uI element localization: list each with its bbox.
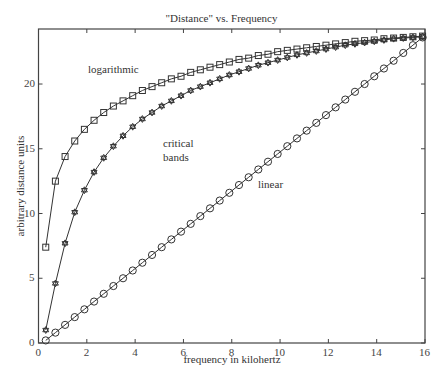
x-tick-label: 4	[132, 346, 138, 358]
series-line-linear	[46, 37, 423, 340]
y-tick-label: 0	[29, 336, 35, 348]
x-tick-label: 0	[36, 346, 42, 358]
series-label-critical: critical	[163, 137, 194, 149]
x-tick-label: 12	[322, 346, 333, 358]
series-label-logarithmic: logarithmic	[88, 63, 139, 75]
chart-title: "Distance" vs. Frequency	[0, 12, 443, 24]
x-tick-label: 8	[229, 346, 235, 358]
x-tick-label: 10	[274, 346, 285, 358]
y-tick-label: 5	[29, 271, 35, 283]
series-label-linear: linear	[258, 178, 283, 190]
x-tick-label: 14	[371, 346, 382, 358]
y-tick-label: 10	[24, 207, 35, 219]
x-tick-label: 6	[180, 346, 186, 358]
x-tick-label: 2	[84, 346, 90, 358]
y-tick-label: 15	[24, 142, 35, 154]
x-tick-label: 16	[419, 346, 430, 358]
series-label-bands: bands	[163, 151, 189, 163]
chart-plot	[0, 0, 443, 380]
y-tick-label: 20	[24, 77, 35, 89]
